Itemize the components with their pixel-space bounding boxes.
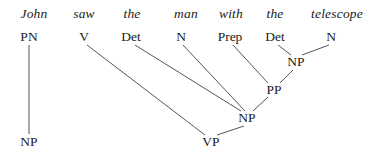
tree-edge-pp-to-np_obj xyxy=(253,97,268,111)
tree-pos-tag-p7: N xyxy=(326,30,336,44)
tree-pos-tag-p2: V xyxy=(79,30,89,44)
tree-phrase-vp: VP xyxy=(202,135,219,149)
tree-pos-tag-p4: N xyxy=(176,30,186,44)
tree-edge-p5-to-pp xyxy=(233,45,268,83)
tree-edge-p3-to-np_obj xyxy=(135,45,241,111)
tree-edge-p2-to-vp xyxy=(87,45,205,135)
tree-word-w3: the xyxy=(123,7,140,21)
syntax-tree-diagram: JohnsawthemanwiththetelescopePNVDetNPrep… xyxy=(0,0,376,158)
tree-word-w5: with xyxy=(219,7,243,21)
tree-edge-p7-to-np_tel xyxy=(302,45,329,55)
tree-word-w2: saw xyxy=(73,7,95,21)
tree-edges-layer xyxy=(0,0,376,158)
tree-word-w7: telescope xyxy=(311,7,363,21)
tree-phrase-np_subj: NP xyxy=(20,135,37,149)
tree-phrase-np_obj: NP xyxy=(238,111,255,125)
tree-pos-tag-p5: Prep xyxy=(218,30,243,44)
tree-word-w4: man xyxy=(174,7,198,21)
tree-edge-np_obj-to-vp xyxy=(217,126,244,135)
tree-edge-p4-to-np_obj xyxy=(183,45,245,111)
tree-edge-np_tel-to-pp xyxy=(280,70,293,83)
tree-pos-tag-p3: Det xyxy=(121,30,141,44)
tree-word-w6: the xyxy=(266,7,283,21)
tree-phrase-pp: PP xyxy=(266,83,281,97)
tree-pos-tag-p6: Det xyxy=(265,30,285,44)
tree-phrase-np_tel: NP xyxy=(287,55,304,69)
tree-pos-tag-p1: PN xyxy=(20,30,37,44)
tree-word-w1: John xyxy=(20,7,47,21)
